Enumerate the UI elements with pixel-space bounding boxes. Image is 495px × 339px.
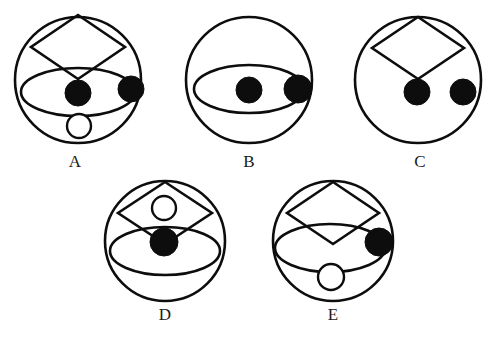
- small-circle-in-diamond-d: [152, 196, 176, 220]
- figure-options-canvas: A B C D E: [0, 0, 495, 339]
- figure-option-d[interactable]: D: [105, 181, 225, 324]
- black-dot-center-b: [236, 77, 262, 103]
- small-circle-below-e: [318, 264, 344, 290]
- small-circle-below-a: [67, 114, 91, 138]
- figure-option-b[interactable]: B: [186, 17, 312, 171]
- black-dot-center-d: [150, 228, 178, 256]
- figure-option-c[interactable]: C: [355, 17, 481, 171]
- black-dot-right-a: [118, 76, 144, 102]
- black-dot-right-c: [450, 79, 476, 105]
- figure-label-b: B: [243, 152, 254, 171]
- figure-label-a: A: [69, 152, 82, 171]
- black-dot-right-b: [284, 75, 312, 103]
- black-dot-center-c: [404, 79, 430, 105]
- figure-label-d: D: [159, 305, 171, 324]
- figure-option-e[interactable]: E: [273, 181, 393, 324]
- figure-label-c: C: [414, 152, 425, 171]
- black-dot-center-a: [65, 80, 91, 106]
- diamond-a: [31, 15, 125, 79]
- black-dot-right-e: [365, 228, 393, 256]
- figure-label-e: E: [328, 305, 338, 324]
- figure-option-a[interactable]: A: [15, 15, 144, 171]
